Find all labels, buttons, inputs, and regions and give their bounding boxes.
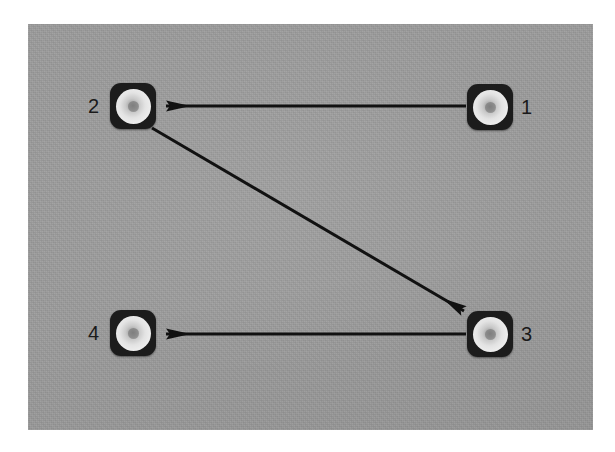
node-2-label: 2 — [88, 96, 99, 116]
node-4-label: 4 — [88, 323, 99, 343]
node-4-center-dot — [128, 328, 139, 339]
node-3-center-dot — [485, 329, 496, 340]
node-4[interactable] — [110, 310, 156, 356]
node-3-label: 3 — [521, 324, 532, 344]
node-1[interactable] — [467, 84, 513, 130]
node-3[interactable] — [467, 311, 513, 357]
node-2[interactable] — [110, 83, 156, 129]
node-1-center-dot — [485, 102, 496, 113]
node-1-label: 1 — [521, 97, 532, 117]
node-1-disc — [473, 90, 508, 125]
node-2-center-dot — [128, 101, 139, 112]
node-2-disc — [116, 89, 151, 124]
node-3-disc — [473, 317, 508, 352]
figure-root: 1 2 3 4 — [0, 0, 615, 452]
node-4-disc — [116, 316, 151, 351]
